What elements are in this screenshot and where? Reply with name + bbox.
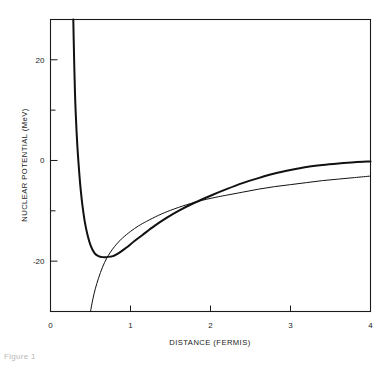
- y-axis-title: NUCLEAR POTENTIAL (MeV): [20, 108, 29, 221]
- x-axis-tick-labels: 01234: [48, 321, 373, 330]
- figure-container: -20020 01234 DISTANCE (FERMIS) NUCLEAR P…: [0, 0, 391, 368]
- y-axis-ticks: [51, 60, 58, 261]
- y-tick-label: 20: [36, 56, 45, 65]
- x-tick-label: 1: [128, 321, 133, 330]
- nuclear-potential-chart: -20020 01234 DISTANCE (FERMIS) NUCLEAR P…: [0, 0, 391, 368]
- y-tick-label: 0: [40, 156, 45, 165]
- x-axis-title: DISTANCE (FERMIS): [169, 338, 250, 347]
- figure-caption: Figure 1: [4, 352, 36, 361]
- x-axis-ticks: [131, 306, 291, 312]
- x-tick-label: 3: [288, 321, 293, 330]
- y-tick-label: -20: [33, 257, 45, 266]
- x-tick-label: 2: [208, 321, 213, 330]
- x-tick-label: 0: [48, 321, 53, 330]
- y-axis-tick-labels: -20020: [33, 56, 45, 266]
- curve-hard-core-potential: [73, 20, 370, 258]
- x-tick-label: 4: [368, 321, 373, 330]
